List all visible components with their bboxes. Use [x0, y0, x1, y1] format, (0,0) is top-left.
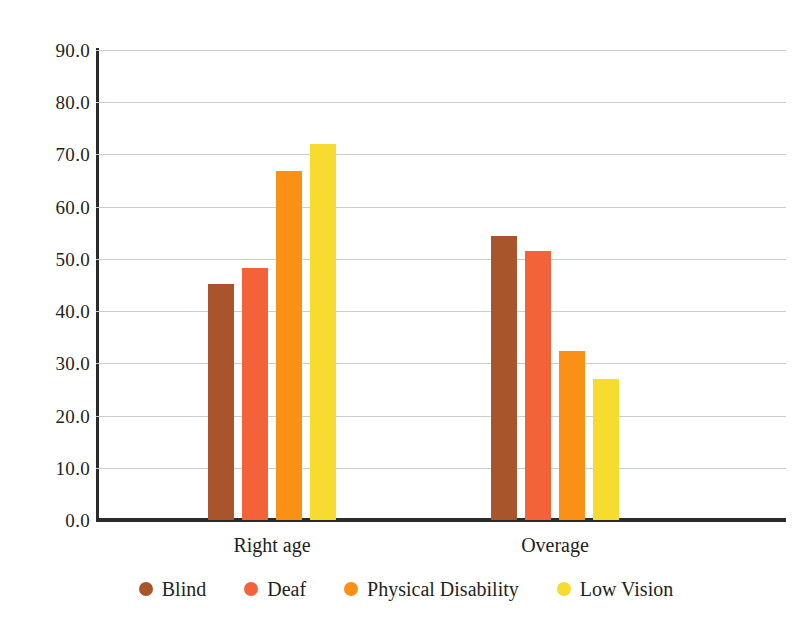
- y-axis-tick-label: 80.0: [4, 93, 90, 112]
- y-axis-tick-label: 60.0: [4, 197, 90, 216]
- legend-marker-circle-icon: [139, 582, 153, 596]
- x-axis-category-label: Right age: [233, 533, 310, 557]
- chart-legend: BlindDeafPhysical DisabilityLow Vision: [0, 578, 812, 600]
- legend-label: Physical Disability: [367, 578, 519, 600]
- legend-marker-circle-icon: [557, 582, 571, 596]
- x-axis-category-label: Overage: [521, 533, 589, 557]
- bar: [491, 236, 517, 520]
- y-axis-tick-label: 0.0: [4, 511, 90, 530]
- y-axis-tick-label: 50.0: [4, 249, 90, 268]
- legend-item[interactable]: Deaf: [244, 578, 306, 600]
- bars: [96, 50, 786, 520]
- y-axis-tick-label: 40.0: [4, 302, 90, 321]
- y-axis-tick-label: 70.0: [4, 145, 90, 164]
- legend-label: Blind: [162, 578, 206, 600]
- y-axis-tick-labels: 0.010.020.030.040.050.060.070.080.090.0: [0, 50, 90, 520]
- bar: [593, 379, 619, 520]
- y-axis-tick-label: 30.0: [4, 354, 90, 373]
- legend-marker-circle-icon: [344, 582, 358, 596]
- legend-item[interactable]: Blind: [139, 578, 206, 600]
- bar: [310, 144, 336, 520]
- bar: [559, 351, 585, 520]
- legend-label: Low Vision: [580, 578, 673, 600]
- bar: [208, 284, 234, 520]
- y-axis-tick-label: 10.0: [4, 458, 90, 477]
- legend-item[interactable]: Low Vision: [557, 578, 673, 600]
- bar-chart: 0.010.020.030.040.050.060.070.080.090.0 …: [0, 0, 812, 633]
- plot-area: [96, 50, 786, 520]
- bar: [525, 251, 551, 520]
- bar: [276, 171, 302, 520]
- y-axis-tick-label: 20.0: [4, 406, 90, 425]
- legend-item[interactable]: Physical Disability: [344, 578, 519, 600]
- y-axis-tick-label: 90.0: [4, 41, 90, 60]
- legend-label: Deaf: [267, 578, 306, 600]
- legend-marker-circle-icon: [244, 582, 258, 596]
- bar: [242, 268, 268, 520]
